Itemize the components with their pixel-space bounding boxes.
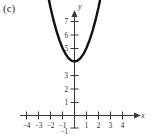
x-tick-label: −3 xyxy=(35,122,43,130)
y-tick-label: 7 xyxy=(64,18,68,26)
y-tick-label: 1 xyxy=(64,99,68,107)
y-tick-label: 2 xyxy=(64,86,68,94)
y-axis-arrow-icon xyxy=(71,10,77,17)
figure-container: (c) −4 −3 xyxy=(0,0,152,136)
y-tick-label: 3 xyxy=(64,72,68,80)
x-tick-label: 2 xyxy=(97,122,101,130)
x-axis-arrow-icon xyxy=(134,112,141,118)
y-tick-label: −1 xyxy=(60,128,68,136)
y-tick-label: 6 xyxy=(64,32,68,40)
x-tick-label: 1 xyxy=(85,122,89,130)
x-tick-label: 4 xyxy=(121,122,125,130)
x-tick-label: −2 xyxy=(47,122,55,130)
y-axis-label: y xyxy=(77,2,82,11)
x-tick-label: 3 xyxy=(109,122,113,130)
plot-area: −4 −3 −2 −1 1 2 3 4 −1 1 2 3 5 6 7 x y xyxy=(0,0,152,136)
x-tick-label: −4 xyxy=(23,122,31,130)
x-axis-label: x xyxy=(140,111,145,120)
